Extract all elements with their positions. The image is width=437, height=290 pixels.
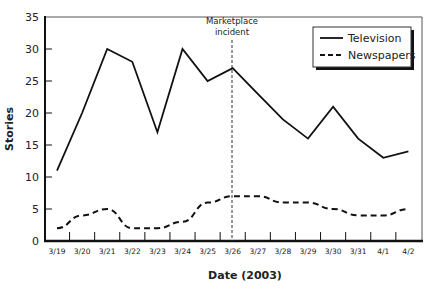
- y-tick-label: 15: [25, 139, 39, 152]
- y-tick-label: 30: [25, 43, 39, 56]
- x-tick-label: 3/21: [99, 247, 116, 256]
- y-axis-ticks: 05101520253035: [25, 11, 52, 248]
- y-tick-label: 20: [25, 107, 39, 120]
- x-tick-label: 4/1: [377, 247, 389, 256]
- x-tick-label: 3/19: [49, 247, 66, 256]
- y-tick-label: 10: [25, 171, 39, 184]
- x-tick-label: 3/20: [74, 247, 91, 256]
- x-tick-label: 4/2: [402, 247, 414, 256]
- x-tick-label: 3/26: [224, 247, 241, 256]
- x-tick-label: 3/30: [325, 247, 342, 256]
- x-tick-label: 3/24: [174, 247, 191, 256]
- y-tick-label: 25: [25, 75, 39, 88]
- line-chart: 05101520253035 3/193/203/213/223/233/243…: [0, 0, 437, 290]
- legend-label-newspapers: Newspapers: [348, 49, 416, 62]
- x-axis-label: Date (2003): [208, 269, 282, 282]
- y-tick-label: 5: [32, 203, 39, 216]
- x-tick-label: 3/27: [249, 247, 266, 256]
- y-tick-label: 35: [25, 11, 39, 24]
- legend-label-television: Television: [347, 32, 402, 45]
- x-tick-label: 3/22: [124, 247, 141, 256]
- x-tick-label: 3/25: [199, 247, 216, 256]
- annotation-text-line2: incident: [215, 27, 250, 37]
- x-tick-label: 3/31: [350, 247, 367, 256]
- newspapers-series-line: [57, 196, 408, 228]
- x-tick-label: 3/28: [274, 247, 291, 256]
- x-tick-label: 3/23: [149, 247, 166, 256]
- y-axis-label: Stories: [3, 107, 16, 151]
- x-tick-label: 3/29: [300, 247, 317, 256]
- legend: Television Newspapers: [313, 27, 416, 70]
- annotation-text-line1: Marketplace: [206, 16, 258, 26]
- y-tick-label: 0: [32, 235, 39, 248]
